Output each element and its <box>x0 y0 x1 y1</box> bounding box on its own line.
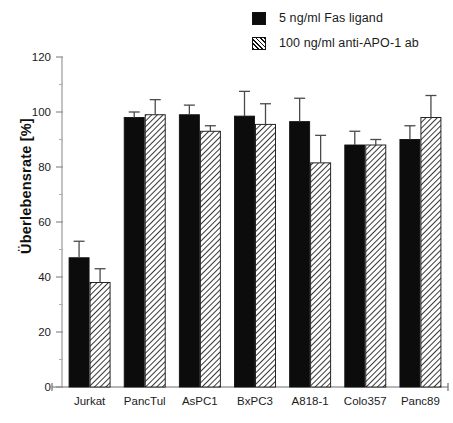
y-axis-tick-label: 100 <box>32 106 51 118</box>
bar-aspc1-series1 <box>179 115 199 387</box>
figure-caption-fragment <box>22 414 442 423</box>
y-axis-tick-label: 60 <box>38 216 51 228</box>
x-axis-category-label: AsPC1 <box>182 395 218 407</box>
chart-plot-area: 020406080100120JurkatPancTulAsPC1BxPC3A8… <box>0 0 453 423</box>
x-axis-category-label: Colo357 <box>344 395 387 407</box>
bar-panc89-series2 <box>421 118 441 388</box>
y-axis-tick-label: 80 <box>38 161 51 173</box>
x-axis-category-label: PancTul <box>124 395 166 407</box>
x-axis-category-label: A818-1 <box>292 395 329 407</box>
bar-colo357-series1 <box>345 145 365 387</box>
bar-jurkat-series1 <box>69 258 89 387</box>
y-axis-tick-label: 0 <box>45 381 51 393</box>
bar-panctul-series1 <box>124 118 144 388</box>
x-axis-category-label: Panc89 <box>401 395 440 407</box>
bar-bxpc3-series2 <box>256 124 276 387</box>
bar-a8181-series2 <box>311 163 331 387</box>
y-axis-tick-label: 120 <box>32 51 51 63</box>
bar-bxpc3-series1 <box>235 116 255 387</box>
bar-jurkat-series2 <box>90 283 110 388</box>
x-axis-category-label: Jurkat <box>74 395 106 407</box>
bar-panc89-series1 <box>400 140 420 388</box>
bar-colo357-series2 <box>366 145 386 387</box>
figure-container: 5 ng/ml Fas ligand 100 ng/ml anti-APO-1 … <box>0 0 453 423</box>
x-axis-category-label: BxPC3 <box>237 395 273 407</box>
y-axis-tick-label: 40 <box>38 271 51 283</box>
bar-panctul-series2 <box>145 115 165 387</box>
y-axis-tick-label: 20 <box>38 326 51 338</box>
bar-a8181-series1 <box>290 122 310 387</box>
bar-aspc1-series2 <box>200 131 220 387</box>
